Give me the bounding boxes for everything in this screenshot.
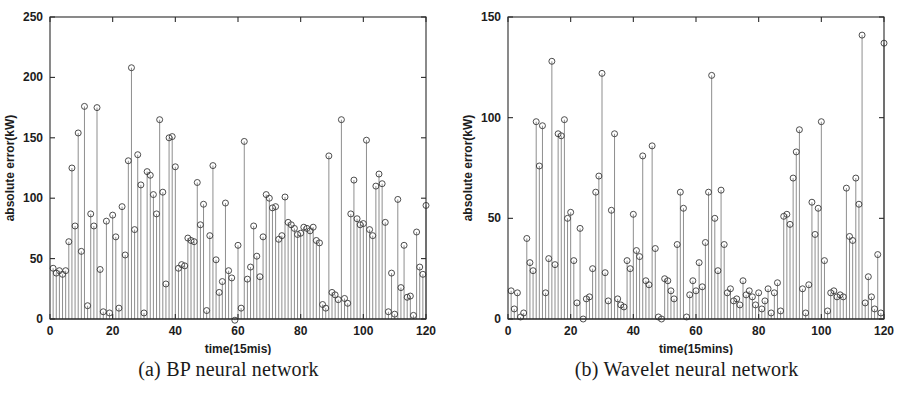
caption-panel-b: (b) Wavelet neural network — [458, 358, 915, 381]
y-tick-label: 150 — [481, 10, 501, 24]
y-tick-label: 200 — [23, 70, 43, 84]
y-tick-label: 0 — [494, 312, 501, 326]
y-axis-title: absolute error(kW) — [3, 115, 17, 222]
x-tick-label: 60 — [689, 324, 703, 338]
y-tick-label: 50 — [488, 211, 502, 225]
x-tick-label: 40 — [627, 324, 641, 338]
panel-wavelet-neural-network: 020406080100120time(15mins)050100150abso… — [458, 0, 915, 407]
x-tick-label: 80 — [294, 324, 308, 338]
x-tick-label: 120 — [874, 324, 894, 338]
x-tick-label: 100 — [811, 324, 831, 338]
figure-container: 020406080100120time(15mis)05010015020025… — [0, 0, 915, 407]
y-tick-label: 150 — [23, 131, 43, 145]
stem-series — [53, 68, 426, 320]
y-axis: 050100150absolute error(kW) — [461, 10, 884, 326]
x-tick-label: 120 — [416, 324, 436, 338]
y-tick-label: 0 — [36, 312, 43, 326]
x-tick-label: 80 — [752, 324, 766, 338]
x-tick-label: 20 — [106, 324, 120, 338]
caption-panel-a: (a) BP neural network — [0, 358, 457, 381]
x-axis-title: time(15mis) — [205, 342, 272, 355]
panel-bp-neural-network: 020406080100120time(15mis)05010015020025… — [0, 0, 457, 407]
x-axis: 020406080100120time(15mis) — [47, 17, 437, 355]
stem-markers — [508, 32, 887, 322]
stem-plot-bp: 020406080100120time(15mis)05010015020025… — [0, 0, 457, 355]
x-tick-label: 60 — [231, 324, 245, 338]
x-tick-label: 0 — [505, 324, 512, 338]
y-tick-label: 250 — [23, 10, 43, 24]
stem-series — [511, 35, 884, 319]
y-axis-title: absolute error(kW) — [461, 115, 475, 222]
x-tick-label: 0 — [47, 324, 54, 338]
y-tick-label: 100 — [481, 111, 501, 125]
x-tick-label: 100 — [353, 324, 373, 338]
x-tick-label: 20 — [564, 324, 578, 338]
x-axis: 020406080100120time(15mins) — [505, 17, 895, 355]
stem-markers — [50, 65, 429, 323]
stem-plot-wavelet: 020406080100120time(15mins)050100150abso… — [458, 0, 915, 355]
x-tick-label: 40 — [169, 324, 183, 338]
y-tick-label: 50 — [30, 252, 44, 266]
y-tick-label: 100 — [23, 191, 43, 205]
x-axis-title: time(15mins) — [659, 342, 733, 355]
